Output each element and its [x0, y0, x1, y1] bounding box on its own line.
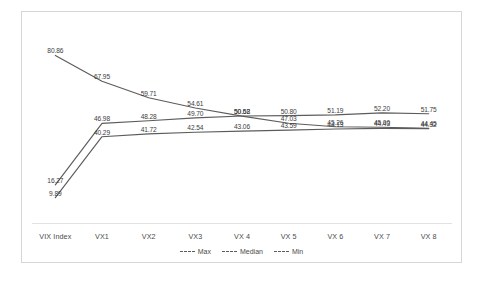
category-label-3: VX3: [172, 228, 219, 246]
legend-item-max[interactable]: Max: [180, 248, 211, 255]
category-label-7: VX 7: [359, 228, 406, 246]
point-label: 16.27: [47, 177, 63, 184]
category-label-8: VX 8: [405, 228, 452, 246]
category-label-1: VX1: [79, 228, 126, 246]
point-label: 52.20: [374, 105, 390, 112]
point-label: 44.43: [374, 120, 390, 127]
point-label: 40.29: [94, 129, 110, 136]
point-label: 50.62: [234, 108, 250, 115]
point-label: 43.06: [234, 123, 250, 130]
chart-figure: 80.8667.9559.7154.6150.5847.0345.2645.00…: [21, 11, 462, 263]
chart-legend: MaxMedianMin: [22, 248, 461, 255]
point-label: 80.86: [47, 47, 63, 54]
category-label-2: VX2: [125, 228, 172, 246]
plot-area: 80.8667.9559.7154.6150.5847.0345.2645.00…: [22, 12, 461, 262]
point-label: 67.95: [94, 73, 110, 80]
point-label: 51.19: [327, 107, 343, 114]
category-label-6: VX 6: [312, 228, 359, 246]
point-label: 51.75: [421, 106, 437, 113]
legend-label: Min: [292, 248, 303, 255]
point-label: 44.32: [421, 121, 437, 128]
legend-dash-icon: [274, 251, 289, 252]
point-label: 59.71: [141, 90, 157, 97]
legend-label: Median: [240, 248, 263, 255]
category-label-4: VX 4: [219, 228, 266, 246]
point-label: 49.70: [187, 110, 203, 117]
point-label: 42.54: [187, 124, 203, 131]
point-label: 9.89: [49, 190, 61, 197]
point-label: 41.72: [141, 126, 157, 133]
point-label: 43.59: [281, 122, 297, 129]
legend-item-median[interactable]: Median: [222, 248, 263, 255]
legend-label: Max: [198, 248, 211, 255]
series-line-max: [55, 55, 428, 128]
category-label-0: VIX Index: [32, 228, 79, 246]
point-label: 46.98: [94, 115, 110, 122]
category-label-5: VX 5: [265, 228, 312, 246]
point-label: 54.61: [187, 100, 203, 107]
series-lines: [22, 12, 461, 262]
category-axis-labels: VIX IndexVX1VX2VX3VX 4VX 5VX 6VX 7VX 8: [32, 228, 452, 246]
legend-item-min[interactable]: Min: [274, 248, 303, 255]
point-label: 50.80: [281, 108, 297, 115]
category-axis-line: [32, 223, 452, 224]
legend-dash-icon: [222, 251, 237, 252]
point-label: 44.13: [327, 121, 343, 128]
point-label: 48.28: [141, 113, 157, 120]
legend-dash-icon: [180, 251, 195, 252]
series-line-min: [55, 128, 428, 197]
